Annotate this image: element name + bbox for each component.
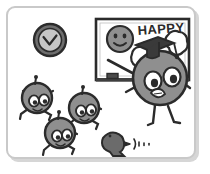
illustration-stage: HAPPY [0, 0, 210, 174]
bird-character [102, 133, 149, 156]
student-character-1 [20, 75, 53, 120]
bird-beak [124, 142, 130, 146]
teacher-mouth [151, 89, 165, 97]
student-3-antenna-tip [57, 110, 61, 114]
student-1-antenna-tip [34, 75, 38, 79]
bird-body [102, 133, 124, 156]
teacher-legs [148, 105, 180, 125]
chirp-motion-lines [134, 139, 149, 149]
clock-face [39, 29, 62, 52]
bird-eye [109, 135, 112, 138]
chalk-eraser [107, 74, 118, 79]
smiley-face-drawing [107, 26, 133, 52]
illustration-frame: HAPPY [6, 6, 196, 159]
wall-clock [34, 24, 66, 56]
illustration-canvas: HAPPY [8, 8, 198, 161]
student-2-antenna-tip [81, 85, 85, 89]
